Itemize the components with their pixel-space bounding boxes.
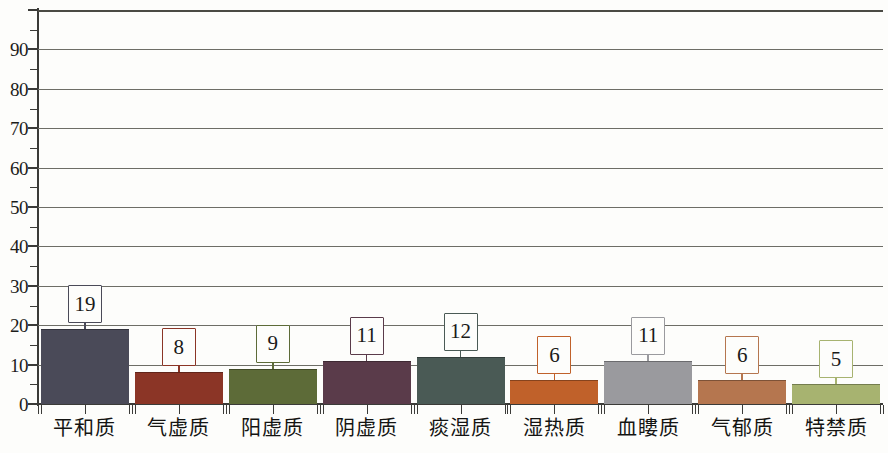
x-tick: [598, 405, 599, 414]
x-tick: [132, 405, 133, 414]
y-tick-0: [28, 403, 37, 405]
data-label-leader-3: [272, 363, 274, 369]
gridline-50: [38, 207, 883, 208]
x-tick: [317, 405, 318, 414]
y-tick-45: [30, 227, 37, 228]
category-label-1: 平和质: [38, 418, 132, 438]
y-tick-65: [30, 148, 37, 149]
y-tick-60: [28, 167, 37, 169]
y-tick-20: [28, 324, 37, 326]
bar-6: [510, 380, 598, 404]
bar-3: [229, 369, 317, 404]
y-axis-label-10: 10: [0, 356, 28, 375]
y-tick-55: [30, 187, 37, 188]
data-label-7: 11: [631, 317, 665, 355]
category-label-8: 气郁质: [695, 418, 789, 438]
data-label-5: 12: [444, 313, 478, 351]
category-label-6: 湿热质: [507, 418, 601, 438]
x-tick: [786, 405, 787, 414]
data-label-6: 6: [537, 336, 571, 374]
data-label-leader-8: [741, 374, 743, 380]
x-tick: [323, 405, 324, 414]
y-axis-label-50: 50: [0, 198, 28, 217]
y-axis-label-30: 30: [0, 277, 28, 296]
y-tick-10: [28, 364, 37, 366]
bar-7: [604, 361, 692, 404]
y-tick-50: [28, 206, 37, 208]
x-tick: [505, 405, 506, 414]
gridline-30: [38, 286, 883, 287]
x-tick: [226, 405, 227, 414]
x-tick: [554, 405, 555, 414]
x-tick: [648, 405, 649, 414]
y-tick-100: [28, 9, 37, 11]
gridline-90: [38, 49, 883, 50]
bar-8: [698, 380, 786, 404]
x-tick: [510, 405, 511, 414]
x-tick: [601, 405, 602, 414]
x-tick: [417, 405, 418, 414]
data-label-1: 19: [68, 285, 102, 323]
x-tick: [414, 405, 415, 414]
data-label-leader-2: [178, 366, 180, 372]
y-tick-80: [28, 88, 37, 90]
x-tick: [507, 405, 508, 414]
gridline-70: [38, 128, 883, 129]
y-axis-label-40: 40: [0, 237, 28, 256]
x-tick: [129, 405, 130, 414]
x-tick: [367, 405, 368, 414]
bar-2: [135, 372, 223, 404]
data-label-leader-6: [554, 374, 556, 380]
x-tick: [880, 405, 881, 414]
gridline-60: [38, 168, 883, 169]
x-tick: [411, 405, 412, 414]
x-tick: [41, 405, 42, 414]
y-axis-label-80: 80: [0, 80, 28, 99]
y-axis-label-90: 90: [0, 40, 28, 59]
y-tick-75: [30, 109, 37, 110]
data-label-leader-7: [647, 355, 649, 361]
gridline-100: [38, 10, 883, 12]
y-tick-25: [30, 306, 37, 307]
category-label-4: 阴虚质: [320, 418, 414, 438]
gridline-40: [38, 246, 883, 247]
data-label-9: 5: [819, 340, 853, 378]
data-label-3: 9: [256, 325, 290, 363]
x-tick: [229, 405, 230, 414]
x-tick: [792, 405, 793, 414]
x-tick: [179, 405, 180, 414]
x-tick: [85, 405, 86, 414]
y-tick-90: [28, 48, 37, 50]
bar-5: [417, 357, 505, 404]
x-tick: [789, 405, 790, 414]
bar-1: [41, 329, 129, 404]
y-tick-15: [30, 345, 37, 346]
bar-4: [323, 361, 411, 404]
x-tick: [604, 405, 605, 414]
data-label-leader-4: [366, 355, 368, 361]
category-label-3: 阳虚质: [226, 418, 320, 438]
x-tick: [695, 405, 696, 414]
x-tick: [698, 405, 699, 414]
gridline-80: [38, 89, 883, 90]
plot-area: 1989111261165: [38, 10, 883, 404]
x-tick: [38, 405, 39, 414]
x-tick: [320, 405, 321, 414]
y-tick-70: [28, 127, 37, 129]
x-tick: [273, 405, 274, 414]
data-label-2: 8: [162, 328, 196, 366]
y-tick-30: [28, 285, 37, 287]
category-label-2: 气虚质: [132, 418, 226, 438]
y-axis-label-20: 20: [0, 316, 28, 335]
y-tick-40: [28, 245, 37, 247]
y-tick-5: [30, 384, 37, 385]
category-label-9: 特禁质: [789, 418, 883, 438]
y-axis-label-0: 0: [0, 395, 28, 414]
data-label-4: 11: [350, 317, 384, 355]
bar-chart: 0102030405060708090 1989111261165 平和质气虚质…: [0, 0, 888, 453]
x-tick: [692, 405, 693, 414]
data-label-leader-5: [460, 351, 462, 357]
data-label-leader-1: [84, 323, 86, 329]
y-tick-85: [30, 69, 37, 70]
x-tick: [742, 405, 743, 414]
